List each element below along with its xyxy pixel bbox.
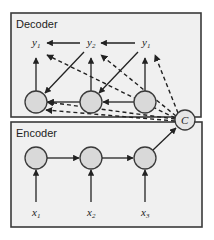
encoder-node-2: [80, 147, 102, 169]
encoder-node-1: [25, 147, 47, 169]
decoder-node-1: [25, 91, 47, 113]
decoder-node-3: [134, 91, 156, 113]
decoder-node-2: [80, 91, 102, 113]
encoder-title: Encoder: [16, 127, 57, 139]
seq2seq-diagram: Decoder Encoder y1 y2 y1 C x1 x2 x3: [0, 0, 214, 240]
decoder-title: Decoder: [16, 18, 58, 30]
encoder-node-3: [134, 147, 156, 169]
context-label: C: [181, 114, 189, 126]
